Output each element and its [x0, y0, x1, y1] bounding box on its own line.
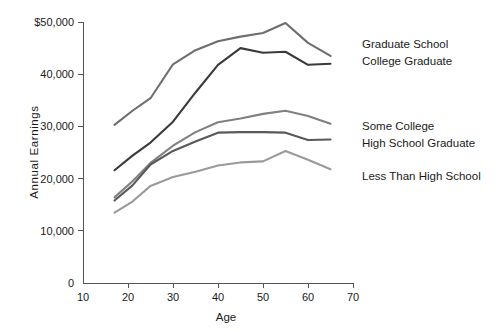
- x-tick-label: 50: [257, 291, 269, 303]
- series-lines: [115, 23, 331, 212]
- y-tick-label: $50,000: [34, 16, 74, 28]
- y-tick-label: 20,000: [40, 173, 74, 185]
- x-axis: 10203040506070: [77, 283, 359, 303]
- series-line-less-than-high-school: [115, 151, 331, 213]
- x-tick-label: 20: [122, 291, 134, 303]
- y-tick-label: 10,000: [40, 225, 74, 237]
- series-line-some-college: [115, 111, 331, 198]
- legend-label-some-college: Some College: [362, 120, 434, 132]
- chart-legend: Graduate SchoolCollege GraduateSome Coll…: [362, 38, 481, 182]
- y-axis-title: Annual Earnings: [28, 105, 40, 198]
- x-tick-label: 40: [212, 291, 224, 303]
- x-tick-label: 30: [167, 291, 179, 303]
- legend-label-graduate-school: Graduate School: [362, 38, 448, 50]
- chart-plot-area: 010,00020,00030,00040,000$50,000 1020304…: [0, 0, 498, 331]
- y-axis: 010,00020,00030,00040,000$50,000: [34, 16, 83, 289]
- legend-label-college-graduate: College Graduate: [362, 55, 452, 67]
- y-tick-label: 30,000: [40, 120, 74, 132]
- x-tick-label: 60: [302, 291, 314, 303]
- series-line-graduate-school: [115, 23, 331, 125]
- x-axis-title: Age: [216, 311, 236, 323]
- legend-label-less-than-high-school: Less Than High School: [362, 170, 481, 182]
- series-line-college-graduate: [115, 48, 331, 170]
- y-tick-label: 0: [68, 277, 74, 289]
- y-tick-label: 40,000: [40, 68, 74, 80]
- x-tick-label: 10: [77, 291, 89, 303]
- legend-label-high-school-graduate: High School Graduate: [362, 137, 475, 149]
- x-tick-label: 70: [347, 291, 359, 303]
- earnings-by-age-chart: 010,00020,00030,00040,000$50,000 1020304…: [0, 0, 498, 331]
